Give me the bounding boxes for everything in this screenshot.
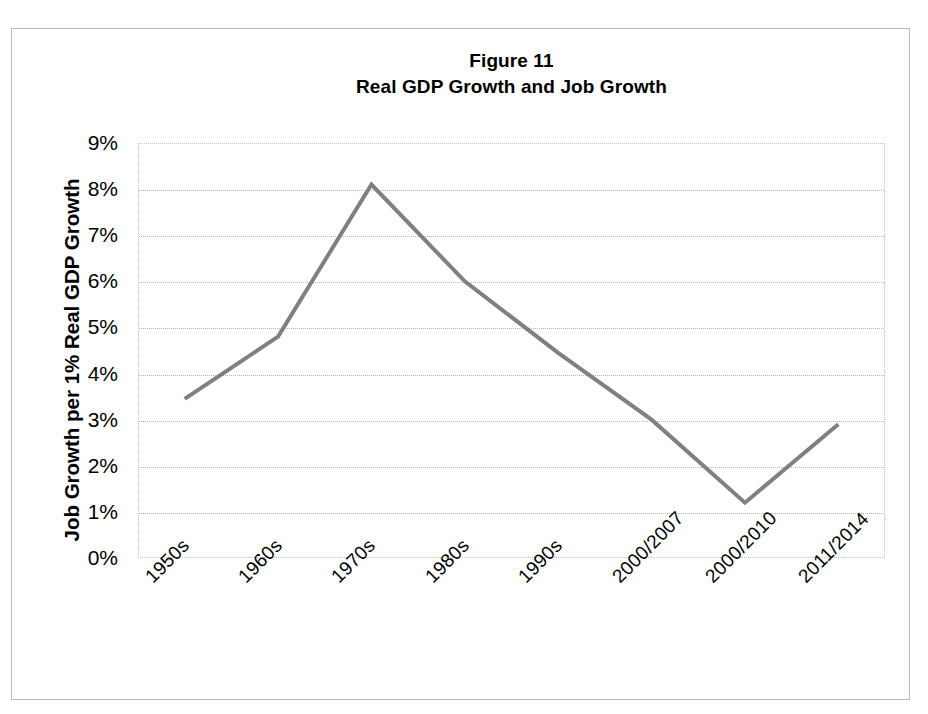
- chart-figure: Figure 11 Real GDP Growth and Job Growth…: [0, 0, 928, 714]
- y-axis-tick-labels: 0%1%2%3%4%5%6%7%8%9%: [40, 143, 128, 558]
- y-tick-label: 4%: [88, 363, 118, 384]
- figure-title: Figure 11: [138, 48, 885, 74]
- series-line-layer: [138, 143, 885, 558]
- x-axis-tick-labels: 1950s1960s1970s1980s1990s2000/20072000/2…: [138, 558, 885, 698]
- series-line: [185, 185, 839, 503]
- y-tick-label: 8%: [88, 178, 118, 199]
- y-tick-label: 3%: [88, 409, 118, 430]
- chart-title-block: Figure 11 Real GDP Growth and Job Growth: [138, 48, 885, 100]
- y-tick-label: 5%: [88, 316, 118, 337]
- y-tick-label: 7%: [88, 224, 118, 245]
- y-tick-label: 6%: [88, 270, 118, 291]
- y-tick-label: 2%: [88, 455, 118, 476]
- y-tick-label: 0%: [88, 547, 118, 568]
- figure-subtitle: Real GDP Growth and Job Growth: [138, 74, 885, 100]
- y-tick-label: 1%: [88, 501, 118, 522]
- y-tick-label: 9%: [88, 132, 118, 153]
